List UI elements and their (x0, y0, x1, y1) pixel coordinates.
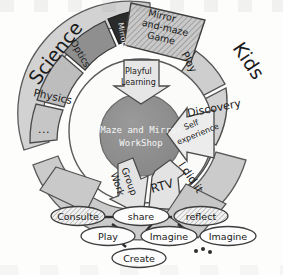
node-label-consulte: Consulte (57, 211, 99, 222)
scan-artifact-bottom (0, 265, 283, 275)
node-label-imagine-2: Imagine (209, 231, 248, 242)
node-label-play: Play (98, 231, 118, 242)
label-pl-l1: Playful (125, 67, 152, 76)
node-label-share: share (128, 211, 154, 222)
node-label-imagine-1: Imagine (150, 231, 189, 242)
label-science-ellipsis: ... (38, 123, 50, 136)
center-title-line2: WorkShop (119, 138, 162, 148)
diagram-canvas: Science Kids Mirrors Optics Physics ... … (0, 0, 283, 275)
label-pl-l2: Learning (121, 78, 156, 87)
center-title-line1: Maze and Mirror (100, 125, 182, 135)
node-label-create: Create (123, 253, 155, 264)
bottom-ellipsis-dots (194, 247, 212, 254)
scan-artifact-top (0, 0, 283, 12)
maze-mirror-workshop-diagram: Science Kids Mirrors Optics Physics ... … (0, 0, 283, 275)
outer-label-kids: Kids (229, 38, 269, 83)
node-label-reflect: reflect (186, 211, 217, 222)
